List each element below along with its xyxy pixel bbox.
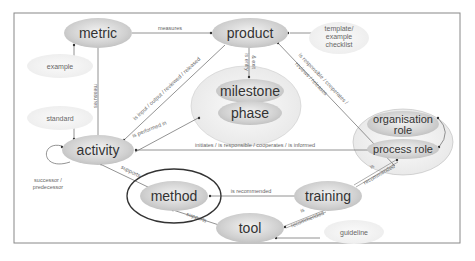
svg-text:example: example: [326, 33, 353, 41]
label-role-activity: initiates / is responsible / cooperates …: [195, 142, 315, 148]
label-product-milestone-1: is entry: [244, 53, 250, 71]
label-training-method: is recommended: [231, 188, 272, 194]
node-organisation-role[interactable]: organisation role: [367, 111, 439, 137]
svg-text:template/: template/: [325, 25, 354, 33]
node-process-role[interactable]: process role: [367, 139, 439, 159]
svg-text:training: training: [305, 188, 351, 204]
svg-text:method: method: [151, 188, 198, 204]
node-example[interactable]: example: [27, 54, 93, 78]
label-product-milestone-2: & exit: [251, 55, 257, 69]
svg-text:product: product: [227, 25, 274, 41]
node-training[interactable]: training: [294, 181, 362, 211]
node-template[interactable]: template/ example checklist: [309, 22, 369, 54]
svg-text:metric: metric: [79, 25, 117, 41]
label-metric-activity: measures: [93, 84, 99, 108]
svg-text:checklist: checklist: [326, 41, 353, 48]
label-metric-product: measures: [158, 25, 182, 31]
node-standard[interactable]: standard: [27, 106, 93, 130]
svg-text:activity: activity: [77, 142, 120, 158]
svg-text:process role: process role: [373, 143, 433, 155]
svg-text:phase: phase: [231, 105, 269, 121]
node-activity[interactable]: activity: [62, 135, 134, 165]
label-self-loop-1: successor /: [34, 177, 62, 183]
svg-text:tool: tool: [239, 220, 262, 236]
node-metric[interactable]: metric: [64, 18, 132, 48]
svg-text:milestone: milestone: [220, 83, 280, 99]
label-self-loop-2: predecessor: [33, 184, 63, 190]
node-guideline[interactable]: guideline: [324, 220, 384, 244]
node-product[interactable]: product: [212, 18, 288, 48]
node-phase[interactable]: phase: [218, 101, 282, 125]
concept-diagram: measures measures is entry & exit is inp…: [0, 0, 475, 261]
svg-text:standard: standard: [46, 115, 73, 122]
svg-text:guideline: guideline: [340, 229, 368, 237]
node-tool[interactable]: tool: [216, 213, 284, 243]
node-milestone[interactable]: milestone: [216, 79, 284, 103]
svg-text:example: example: [47, 63, 74, 71]
svg-text:role: role: [394, 124, 412, 136]
